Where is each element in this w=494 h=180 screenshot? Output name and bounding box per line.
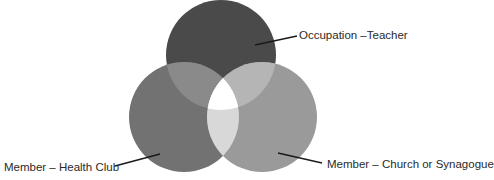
label-member-health-club: Member – Health Club — [4, 160, 119, 174]
label-member-church-synagogue: Member – Church or Synagogue — [327, 157, 494, 171]
label-occupation-teacher: Occupation –Teacher — [299, 28, 408, 42]
